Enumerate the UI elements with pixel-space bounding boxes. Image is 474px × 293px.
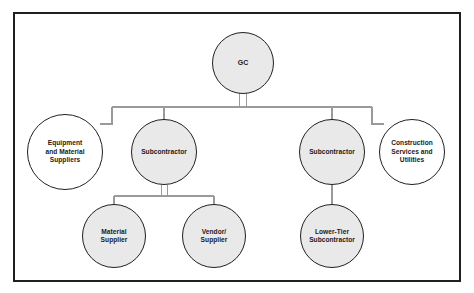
node-equipment-material-suppliers[interactable]: Equipment and Material Suppliers [27, 114, 103, 190]
node-lower-tier-subcontractor-label: Lower-Tier Subcontractor [306, 228, 358, 245]
node-gc-label: GC [235, 59, 252, 67]
diagram-canvas: GC Equipment and Material Suppliers Subc… [0, 0, 474, 293]
node-subcontractor-right-label: Subcontractor [306, 148, 358, 156]
node-subcontractor-right[interactable]: Subcontractor [299, 119, 365, 185]
node-material-supplier[interactable]: Material Supplier [82, 204, 146, 268]
node-equipment-material-suppliers-label: Equipment and Material Suppliers [42, 139, 87, 164]
edge-stepped-left [100, 107, 112, 124]
node-vendor-supplier[interactable]: Vendor/ Supplier [182, 204, 246, 268]
node-lower-tier-subcontractor[interactable]: Lower-Tier Subcontractor [300, 204, 364, 268]
node-subcontractor-left-label: Subcontractor [138, 148, 190, 156]
edge-stepped-right [372, 107, 384, 124]
node-material-supplier-label: Material Supplier [98, 228, 131, 245]
node-construction-services-utilities-label: Construction Services and Utilities [388, 139, 436, 164]
node-subcontractor-left[interactable]: Subcontractor [131, 119, 197, 185]
node-vendor-supplier-label: Vendor/ Supplier [198, 228, 231, 245]
node-construction-services-utilities[interactable]: Construction Services and Utilities [379, 119, 445, 185]
node-gc[interactable]: GC [212, 32, 274, 94]
